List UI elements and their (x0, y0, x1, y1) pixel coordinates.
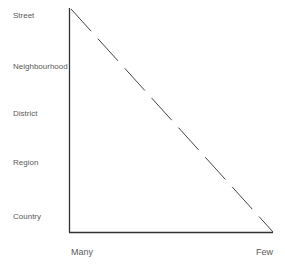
y-label-region: Region (13, 158, 38, 168)
x-label-few: Few (256, 247, 273, 258)
y-label-street: Street (13, 11, 34, 21)
y-label-country: Country (13, 212, 41, 222)
y-label-district: District (13, 109, 37, 119)
x-label-many: Many (71, 247, 93, 258)
dashed-trend-line (71, 9, 273, 232)
diagram-canvas (0, 0, 285, 265)
y-label-neighbourhood: Neighbourhood (13, 62, 68, 72)
